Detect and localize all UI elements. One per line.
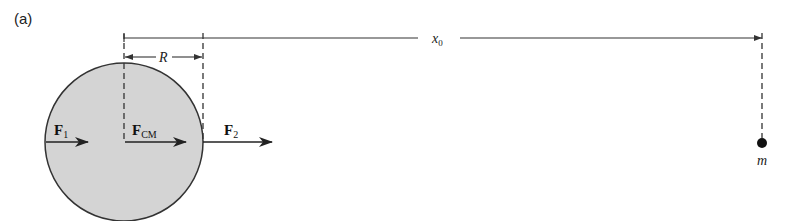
force-f2-label: F2 (224, 122, 238, 140)
diagram-canvas: (a) x0 R F1 FCM F2 m (0, 0, 811, 221)
radius-dimension: R (125, 50, 202, 65)
x0-label: x0 (431, 31, 443, 48)
point-mass-label: m (757, 153, 767, 168)
radius-label: R (158, 50, 168, 65)
force-f2: F2 (203, 122, 272, 142)
panel-label: (a) (14, 10, 32, 27)
point-mass (757, 138, 767, 148)
x0-dimension: x0 (124, 31, 762, 48)
